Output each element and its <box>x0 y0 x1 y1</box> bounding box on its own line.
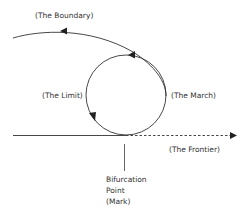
circle-left-arrow-icon <box>89 112 96 121</box>
frontier-label: (The Frontier) <box>169 145 220 155</box>
frontier-arrow-icon <box>230 132 237 139</box>
boundary-label: (The Boundary) <box>35 11 93 21</box>
march-circle <box>86 55 166 135</box>
bifurcation-label-line3: (Mark) <box>106 197 130 207</box>
bifurcation-label-line1: Bifurcation <box>106 175 147 185</box>
boundary-arc <box>13 32 166 96</box>
march-label: (The March) <box>171 91 216 101</box>
circle-top-arrow-icon <box>128 51 135 59</box>
bifurcation-label-line2: Point <box>106 186 125 196</box>
boundary-arrow-icon <box>60 28 67 35</box>
limit-label: (The Limit) <box>42 91 83 101</box>
